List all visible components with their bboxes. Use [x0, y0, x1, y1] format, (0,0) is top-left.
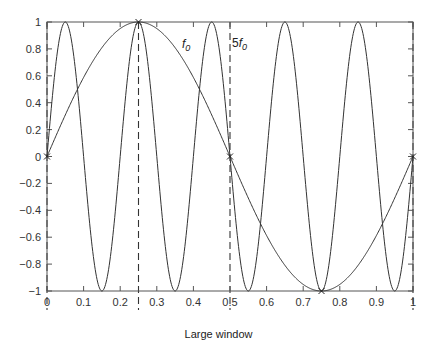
y-tick-label: −1	[28, 285, 41, 297]
x-tick-label: 0.8	[332, 296, 347, 308]
x-tick-label: 0.4	[186, 296, 201, 308]
sample-dashed-lines	[47, 22, 413, 310]
x-tick-label: 0.2	[113, 296, 128, 308]
curve-labels: f0 5f0	[182, 36, 247, 53]
sinusoid-chart: 00.10.20.30.40.50.60.70.80.9110.80.60.40…	[0, 0, 437, 359]
y-tick-label: −0.2	[19, 177, 41, 189]
y-tick-label: −0.4	[19, 204, 41, 216]
x-tick-label: 0.1	[76, 296, 91, 308]
x-tick-label: 1	[410, 296, 416, 308]
x-tick-label: 0	[44, 296, 50, 308]
x-tick-label: 0.9	[369, 296, 384, 308]
y-tick-label: 0.8	[26, 43, 41, 55]
chart-caption: Large window	[0, 328, 437, 340]
label-5f0: 5f0	[232, 36, 247, 52]
x-tick-label: 0.3	[149, 296, 164, 308]
y-tick-label: −0.8	[19, 258, 41, 270]
x-tick-label: 0.5	[222, 296, 237, 308]
y-tick-label: −0.6	[19, 231, 41, 243]
axis-ticks: 00.10.20.30.40.50.60.70.80.9110.80.60.40…	[19, 16, 416, 308]
y-tick-label: 0.2	[26, 124, 41, 136]
y-tick-label: 0	[35, 151, 41, 163]
y-tick-label: 0.6	[26, 70, 41, 82]
y-tick-label: 0.4	[26, 97, 41, 109]
label-f0: f0	[182, 37, 190, 53]
y-tick-label: 1	[35, 16, 41, 28]
x-tick-label: 0.7	[296, 296, 311, 308]
x-tick-label: 0.6	[259, 296, 274, 308]
